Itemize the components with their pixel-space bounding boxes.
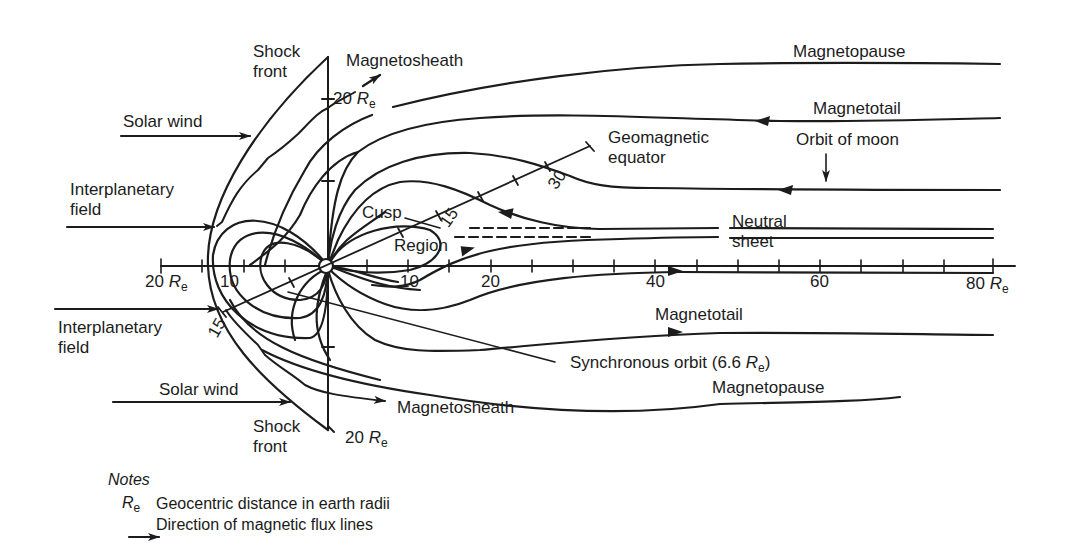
axis-label-left-10: 10 (220, 272, 239, 292)
solar-wind-bottom-label: Solar wind (159, 380, 238, 400)
legend-item-re: Re Geocentric distance in earth radii (108, 493, 390, 514)
neutral-sheet-label: Neutral sheet (732, 212, 787, 252)
cusp-label: Cusp (362, 203, 402, 223)
orbit-of-moon-label: Orbit of moon (796, 130, 899, 150)
interplanetary-field-bottom-label: Interplanetary field (58, 318, 162, 358)
shock-front-top-label: Shock front (253, 42, 300, 82)
magnetopause-top-label: Magnetopause (793, 42, 905, 62)
magnetotail-bottom-label: Magnetotail (655, 305, 743, 325)
magnetopause-bottom-label: Magnetopause (712, 378, 824, 398)
shock-front-bottom-label: Shock front (253, 417, 300, 457)
region-label: Region (394, 236, 448, 256)
axis-label-right-40: 40 (646, 272, 665, 292)
magnetosheath-top-label: Magnetosheath (346, 51, 463, 71)
magnetosheath-bottom-label: Magnetosheath (397, 398, 514, 418)
solar-wind-top-label: Solar wind (123, 112, 202, 132)
notes-legend: Notes Re Geocentric distance in earth ra… (108, 470, 390, 535)
legend-item-arrow: Direction of magnetic flux lines (108, 514, 390, 535)
geomagnetic-equator-label: Geomagnetic equator (608, 128, 709, 168)
vertical-bottom-distance-label: 20 Re (345, 428, 388, 449)
magnetopause-top (393, 63, 1000, 107)
legend-text: Geocentric distance in earth radii (154, 494, 390, 514)
axis-label-right-60: 60 (810, 272, 829, 292)
distance-axis (161, 259, 1015, 273)
shock-front (208, 57, 328, 430)
axis-label-left-20: 20 Re (145, 272, 188, 293)
interplanetary-field-top-label: Interplanetary field (70, 180, 174, 220)
magnetotail-top-label: Magnetotail (813, 99, 901, 119)
axis-label-right-10: 10 (400, 272, 419, 292)
axis-label-right-20: 20 (481, 272, 500, 292)
axis-label-right-80: 80 Re (966, 274, 1009, 295)
re-symbol: Re (108, 493, 154, 514)
vertical-top-distance-label: 20 Re (333, 89, 376, 110)
synchronous-orbit-label: Synchronous orbit (6.6 Re) (570, 353, 770, 374)
legend-text: Direction of magnetic flux lines (154, 515, 373, 535)
notes-title: Notes (108, 470, 390, 490)
